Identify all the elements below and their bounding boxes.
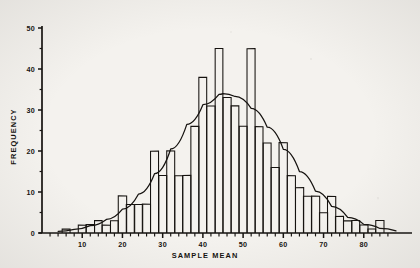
x-tick-label: 30: [158, 240, 167, 249]
histogram-bar: [271, 168, 279, 233]
histogram-bar: [199, 77, 207, 233]
histogram-bar: [151, 151, 159, 233]
histogram-bar: [159, 175, 167, 233]
chart-canvas: 010203040501020304050607080SAMPLE MEANFR…: [0, 0, 420, 268]
histogram-bar: [319, 213, 327, 233]
histogram-bar: [215, 48, 223, 233]
histogram-bar: [207, 106, 215, 233]
x-tick-label: 20: [118, 240, 127, 249]
histogram-bar: [279, 143, 287, 233]
x-tick-label: 80: [359, 240, 368, 249]
axes-group: [38, 26, 412, 238]
x-tick-label: 70: [319, 240, 328, 249]
bars-group: [62, 48, 384, 233]
tick-labels-group: 010203040501020304050607080SAMPLE MEANFR…: [9, 24, 368, 260]
histogram-bar: [352, 221, 360, 233]
histogram-bar: [102, 225, 110, 233]
histogram-bar: [247, 49, 255, 233]
histogram-bar: [335, 216, 343, 233]
histogram-bar: [142, 204, 150, 233]
x-axis-title: SAMPLE MEAN: [172, 251, 239, 260]
y-tick-label: 0: [31, 229, 35, 238]
x-tick-label: 40: [199, 240, 208, 249]
histogram-bar: [191, 126, 199, 233]
histogram-bar: [175, 176, 183, 233]
histogram-bar: [126, 204, 134, 233]
histogram-bar: [360, 225, 368, 233]
histogram-bar: [296, 188, 304, 233]
histogram-bar: [167, 151, 175, 233]
x-tick-label: 60: [279, 240, 288, 249]
y-tick-label: 20: [26, 147, 35, 156]
normal-curve-group: [58, 94, 396, 232]
histogram-figure: 010203040501020304050607080SAMPLE MEANFR…: [0, 0, 420, 268]
y-tick-label: 30: [26, 106, 35, 115]
x-tick-label: 50: [239, 240, 248, 249]
histogram-bar: [239, 126, 247, 233]
histogram-bar: [287, 176, 295, 233]
y-axis-title: FREQUENCY: [9, 108, 18, 164]
histogram-bar: [303, 196, 311, 233]
histogram-bar: [255, 127, 263, 233]
histogram-bar: [312, 196, 320, 233]
histogram-bar: [183, 175, 191, 233]
histogram-bar: [263, 143, 271, 233]
histogram-bar: [231, 106, 239, 233]
histogram-bar: [223, 97, 231, 233]
histogram-bar: [343, 221, 351, 233]
y-tick-label: 10: [26, 188, 35, 197]
histogram-bar: [111, 221, 119, 233]
normal-curve: [58, 94, 396, 232]
histogram-bar: [135, 205, 143, 234]
x-tick-label: 10: [78, 240, 87, 249]
y-tick-label: 50: [26, 24, 35, 33]
y-tick-label: 40: [26, 65, 35, 74]
histogram-bar: [118, 196, 126, 233]
